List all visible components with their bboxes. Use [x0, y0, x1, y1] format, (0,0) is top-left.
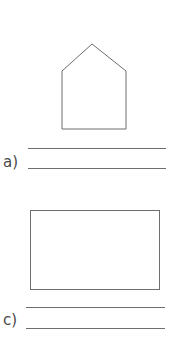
rectangle-icon: [0, 0, 170, 354]
item-label-c: c): [3, 313, 17, 328]
answer-line-c-1[interactable]: [26, 307, 165, 308]
answer-line-c-2[interactable]: [26, 328, 165, 329]
